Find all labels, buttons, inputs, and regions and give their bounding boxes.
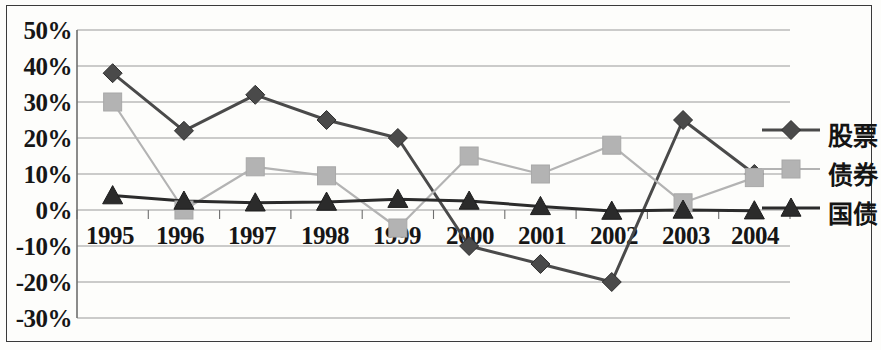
series-line-0 — [113, 73, 755, 282]
diamond-marker — [602, 273, 621, 292]
diamond-marker — [460, 237, 479, 256]
series-line-2 — [113, 196, 755, 211]
square-marker — [745, 169, 763, 187]
diamond-marker — [782, 121, 801, 140]
square-marker — [460, 147, 478, 165]
square-marker — [318, 167, 336, 185]
square-marker — [389, 219, 407, 237]
square-marker — [603, 136, 621, 154]
diamond-marker — [317, 111, 336, 130]
square-marker — [246, 158, 264, 176]
square-marker — [531, 165, 549, 183]
diamond-marker — [531, 255, 550, 274]
square-marker — [104, 93, 122, 111]
chart-figure: 50% 40% 30% 20% 10% 0% -10% -20% -30% 19… — [0, 0, 881, 350]
square-marker — [782, 160, 800, 178]
legend-markers — [762, 121, 820, 217]
plot-area — [0, 0, 881, 350]
data-series-layer — [103, 64, 765, 292]
diamond-marker — [388, 129, 407, 148]
gridlines — [77, 30, 790, 318]
